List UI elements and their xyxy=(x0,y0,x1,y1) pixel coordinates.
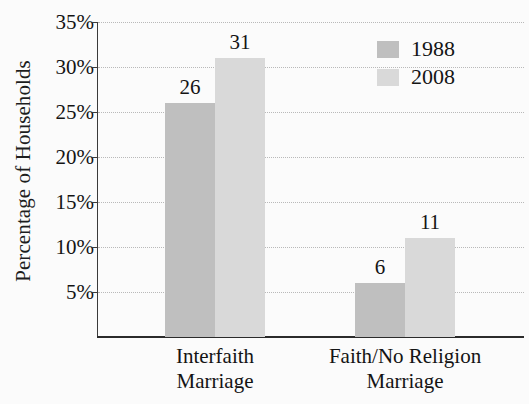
y-axis-tick xyxy=(91,67,98,68)
y-axis-tick xyxy=(91,247,98,248)
y-tick-label: 30% xyxy=(32,55,94,80)
legend-swatch-icon xyxy=(377,41,399,58)
bar-value-label: 31 xyxy=(215,30,265,55)
y-tick-label: 5% xyxy=(32,280,94,305)
legend: 19882008 xyxy=(377,38,455,88)
gridline xyxy=(98,112,524,113)
bar-value-label: 6 xyxy=(355,255,405,280)
y-axis-tick-labels: 35%30%25%20%15%10%5% xyxy=(32,0,94,404)
gridline xyxy=(98,67,524,68)
gridline xyxy=(98,292,524,293)
x-category-label-line: Faith/No Religion xyxy=(310,344,500,369)
y-tick-label: 15% xyxy=(32,190,94,215)
y-tick-label: 20% xyxy=(32,145,94,170)
legend-label: 2008 xyxy=(411,66,455,88)
x-category-label-line: Interfaith xyxy=(120,344,310,369)
x-category-label-line: Marriage xyxy=(120,369,310,394)
y-tick-label: 35% xyxy=(32,10,94,35)
y-tick-label: 25% xyxy=(32,100,94,125)
x-category-label: Faith/No ReligionMarriage xyxy=(310,344,500,394)
gridline xyxy=(98,22,524,23)
x-category-label: InterfaithMarriage xyxy=(120,344,310,394)
y-axis-tick xyxy=(91,157,98,158)
gridline xyxy=(98,202,524,203)
bar-1988-0 xyxy=(165,103,215,337)
x-category-label-line: Marriage xyxy=(310,369,500,394)
bar-value-label: 11 xyxy=(405,210,455,235)
y-axis-spine xyxy=(97,22,98,337)
bar-chart: Percentage of Households 35%30%25%20%15%… xyxy=(0,0,529,404)
legend-label: 1988 xyxy=(411,38,455,60)
bar-2008-0 xyxy=(215,58,265,337)
y-axis-tick xyxy=(91,22,98,23)
gridline xyxy=(98,247,524,248)
legend-swatch-icon xyxy=(377,69,399,86)
bar-1988-1 xyxy=(355,283,405,337)
plot-area: 2631611 xyxy=(98,22,524,337)
gridline xyxy=(98,157,524,158)
bar-value-label: 26 xyxy=(165,75,215,100)
y-axis-tick xyxy=(91,292,98,293)
x-axis-spine xyxy=(97,336,524,338)
y-axis-tick xyxy=(91,202,98,203)
bar-2008-1 xyxy=(405,238,455,337)
legend-item-2008: 2008 xyxy=(377,66,455,88)
y-axis-tick xyxy=(91,112,98,113)
legend-item-1988: 1988 xyxy=(377,38,455,60)
y-tick-label: 10% xyxy=(32,235,94,260)
